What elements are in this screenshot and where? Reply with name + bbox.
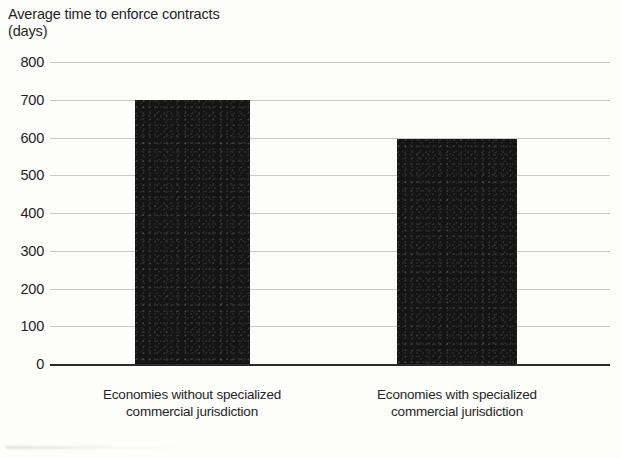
- y-axis-tick-label: 100: [0, 319, 44, 334]
- category-label: Economies without specialized commercial…: [47, 386, 337, 420]
- y-axis-tick-label: 600: [0, 131, 44, 146]
- bar: [397, 139, 517, 364]
- gridline: [50, 62, 610, 63]
- x-axis-baseline: [50, 364, 610, 366]
- gridline: [50, 251, 610, 252]
- gridline: [50, 100, 610, 101]
- y-axis-tick-label: 700: [0, 93, 44, 108]
- scan-artifact: [6, 446, 196, 449]
- gridline: [50, 175, 610, 176]
- gridline: [50, 326, 610, 327]
- chart-figure: Average time to enforce contracts (days)…: [0, 0, 621, 458]
- bar: [135, 100, 250, 364]
- y-axis-tick-label: 400: [0, 206, 44, 221]
- chart-units-label: (days): [8, 23, 47, 40]
- gridline: [50, 213, 610, 214]
- y-axis-tick-labels: 8007006005004003002001000: [0, 62, 44, 364]
- chart-title: Average time to enforce contracts: [8, 6, 428, 23]
- gridline: [50, 138, 610, 139]
- plot-area: [50, 62, 610, 364]
- category-label: Economies with specialized commercial ju…: [337, 386, 577, 420]
- y-axis-tick-label: 200: [0, 282, 44, 297]
- gridline: [50, 289, 610, 290]
- y-axis-tick-label: 500: [0, 168, 44, 183]
- y-axis-tick-label: 0: [0, 357, 44, 372]
- y-axis-tick-label: 300: [0, 244, 44, 259]
- y-axis-tick-label: 800: [0, 55, 44, 70]
